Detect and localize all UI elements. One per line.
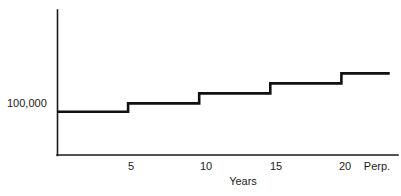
step-chart: 100,000 5 10 15 20 Perp. Years bbox=[0, 0, 401, 196]
step-series-line bbox=[57, 73, 390, 111]
x-tick-label-10: 10 bbox=[186, 160, 226, 172]
x-tick-label-5: 5 bbox=[111, 160, 151, 172]
y-axis-value-label: 100,000 bbox=[7, 97, 47, 109]
x-tick-label-perp: Perp. bbox=[355, 160, 399, 172]
x-axis-title: Years bbox=[213, 175, 273, 187]
x-tick-label-15: 15 bbox=[256, 160, 296, 172]
